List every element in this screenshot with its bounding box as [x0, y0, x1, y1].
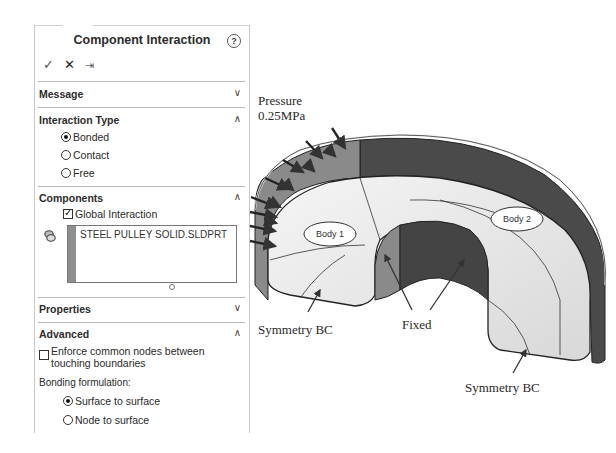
symmetry-bc-left-annotation: Symmetry BC — [258, 322, 333, 337]
body1-label: Body 1 — [316, 229, 344, 239]
body2-label: Body 2 — [503, 214, 531, 224]
fixed-annotation: Fixed — [402, 317, 432, 332]
symmetry-bc-right-annotation: Symmetry BC — [465, 380, 540, 395]
